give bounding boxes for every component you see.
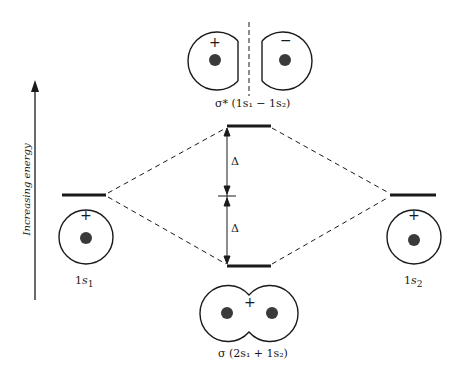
delta-lower: Δ <box>231 222 239 235</box>
mo-diagram-drawing <box>0 0 460 375</box>
sign-1s2: + <box>408 207 420 223</box>
splitting-arrows <box>218 128 236 264</box>
label-bonding: σ (2s₁ + 1s₂) <box>218 347 288 360</box>
correlation-lines <box>108 128 389 264</box>
sign-antibonding-right: − <box>280 32 292 48</box>
delta-upper: Δ <box>231 155 239 168</box>
label-antibonding: σ* (1s₁ − 1s₂) <box>215 97 290 110</box>
energy-axis-arrow <box>31 80 39 300</box>
sign-1s1: + <box>80 207 92 223</box>
label-1s2: 1s2 <box>404 274 422 289</box>
sign-bonding: + <box>244 294 256 310</box>
orbital-antibonding <box>188 22 312 96</box>
label-1s1: 1s1 <box>75 274 93 289</box>
energy-axis-label: Increasing energy <box>21 156 32 236</box>
sign-antibonding-left: + <box>209 34 221 50</box>
